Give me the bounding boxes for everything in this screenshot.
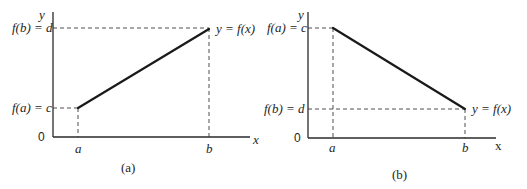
- panel-a-tick-b: b: [206, 141, 213, 156]
- panel-b-tick-a: a: [329, 140, 336, 155]
- panel-b-origin-label: 0: [294, 131, 301, 145]
- panel-a-tick-a: a: [75, 141, 82, 156]
- panel-b: y x 0 f(a) = c f(b) = d a b y = f(x) (b): [264, 7, 511, 182]
- panel-a-caption: (a): [121, 160, 135, 175]
- panel-b-caption: (b): [392, 167, 407, 182]
- panel-a-lower-value-label: f(a) = c: [12, 100, 52, 115]
- panel-b-upper-value-label: f(a) = c: [267, 20, 307, 35]
- panel-a-curve-label: y = f(x): [214, 21, 255, 36]
- figure-canvas: y x 0 f(b) = d f(a) = c a b y = f(x) (a)…: [0, 0, 527, 189]
- panel-a-upper-value-label: f(b) = d: [12, 20, 53, 35]
- panel-b-curve-label: y = f(x): [470, 101, 511, 116]
- panel-a: y x 0 f(b) = d f(a) = c a b y = f(x) (a): [12, 7, 259, 175]
- panel-a-x-label: x: [252, 132, 259, 147]
- panel-b-function-line: [333, 28, 465, 109]
- panel-a-function-line: [78, 29, 209, 108]
- panel-b-lower-value-label: f(b) = d: [264, 101, 305, 116]
- panel-a-origin-label: 0: [38, 130, 45, 144]
- panel-b-tick-b: b: [462, 140, 469, 155]
- panel-b-x-label: x: [495, 138, 502, 153]
